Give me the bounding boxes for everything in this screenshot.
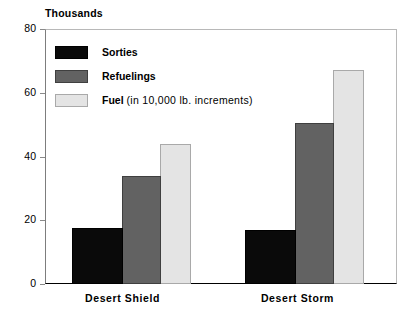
y-axis-tick-mark-0 xyxy=(40,284,45,285)
legend-item-sorties: Sorties xyxy=(55,40,305,64)
legend-swatch-sorties xyxy=(55,46,88,59)
legend-swatch-fuel xyxy=(55,94,88,107)
x-axis-label-desert-shield: Desert Shield xyxy=(45,292,200,304)
legend-label-refuelings: Refuelings xyxy=(102,70,156,82)
y-axis-tick-label-80: 80 xyxy=(24,22,36,34)
bar-desert-storm-fuel xyxy=(333,70,364,284)
legend-note-fuel: (in 10,000 lb. increments) xyxy=(127,94,253,106)
y-axis-tick-label-0: 0 xyxy=(30,277,36,289)
legend-item-fuel: Fuel (in 10,000 lb. increments) xyxy=(55,88,305,112)
x-axis-label-desert-storm: Desert Storm xyxy=(220,292,375,304)
legend-swatch-refuelings xyxy=(55,70,88,83)
bar-desert-storm-refuelings xyxy=(295,123,334,284)
y-axis: 0 20 40 60 80 xyxy=(0,0,45,316)
y-axis-tick-label-40: 40 xyxy=(24,150,36,162)
bar-chart: Thousands 0 20 40 60 80 xyxy=(0,0,417,316)
legend-label-sorties-text: Sorties xyxy=(102,46,138,58)
bar-desert-storm-sorties xyxy=(245,230,296,284)
legend-label-refuelings-text: Refuelings xyxy=(102,70,156,82)
y-axis-unit-caption: Thousands xyxy=(45,7,103,19)
bar-desert-shield-refuelings xyxy=(122,176,161,284)
legend-label-sorties: Sorties xyxy=(102,46,138,58)
legend-item-refuelings: Refuelings xyxy=(55,64,305,88)
bar-desert-shield-sorties xyxy=(72,228,123,284)
x-axis-labels: Desert Shield Desert Storm xyxy=(45,292,397,312)
legend: Sorties Refuelings Fuel (in 10,000 lb. i… xyxy=(55,40,305,112)
y-axis-tick-label-60: 60 xyxy=(24,86,36,98)
legend-label-fuel-text: Fuel xyxy=(102,94,124,106)
bar-desert-shield-fuel xyxy=(160,144,191,284)
y-axis-tick-label-20: 20 xyxy=(24,213,36,225)
legend-label-fuel: Fuel (in 10,000 lb. increments) xyxy=(102,94,253,106)
